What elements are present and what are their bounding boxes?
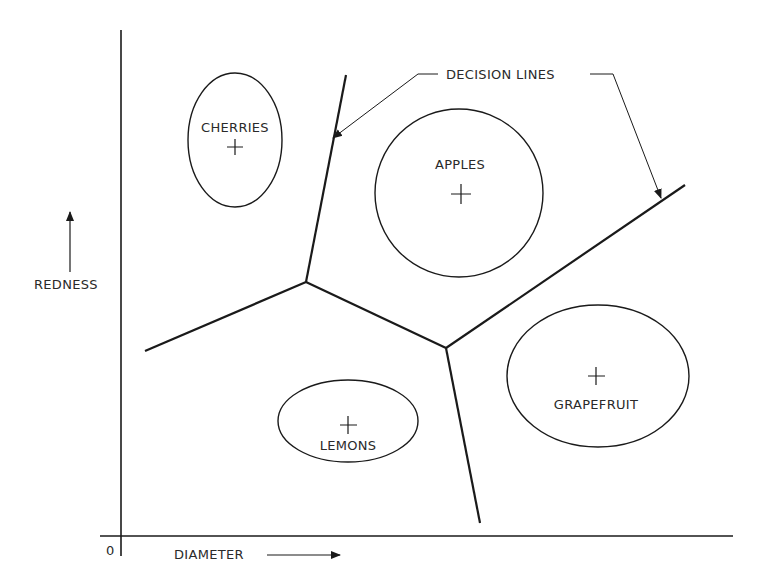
class-cherries: CHERRIES [188, 73, 282, 207]
centroid-plus-icon [227, 139, 243, 155]
svg-text:GRAPEFRUIT: GRAPEFRUIT [554, 397, 638, 412]
callout-arrow-left-icon [333, 74, 438, 138]
class-lemons: LEMONS [278, 380, 418, 462]
centroid-plus-icon [451, 184, 471, 204]
decision-lines [145, 75, 685, 523]
x-axis-label: DIAMETER [174, 547, 244, 562]
svg-text:CHERRIES: CHERRIES [201, 120, 269, 135]
decision-lines-callout: DECISION LINES [446, 67, 555, 82]
centroid-plus-icon [340, 416, 357, 434]
svg-text:LEMONS: LEMONS [320, 438, 377, 453]
class-apples: APPLES [375, 109, 543, 277]
callout-arrow-right-icon [590, 74, 661, 198]
decision-boundary-diagram: 0 DIAMETER REDNESS DECISION LINES CHERRI… [0, 0, 757, 582]
y-axis-label: REDNESS [34, 277, 98, 292]
origin-label: 0 [106, 543, 115, 558]
svg-text:APPLES: APPLES [435, 157, 485, 172]
centroid-plus-icon [588, 367, 605, 385]
class-grapefruit: GRAPEFRUIT [507, 305, 689, 447]
